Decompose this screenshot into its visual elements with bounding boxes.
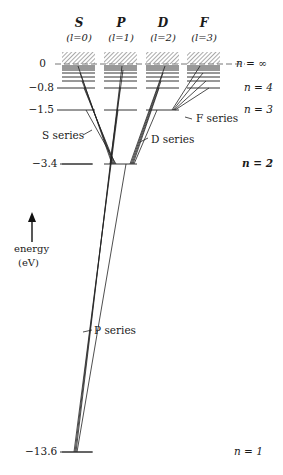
n-infinity-label: n = ∞	[236, 57, 267, 69]
s-series-label: S series	[42, 129, 84, 141]
n4-label: n = 4	[244, 81, 273, 93]
energy-tick-13.6: −13.6	[25, 445, 57, 457]
energy-axis-label: energy	[14, 243, 49, 254]
d-series-label: D series	[151, 133, 194, 145]
n3-label: n = 3	[244, 103, 273, 115]
energy-level-diagram: S P D F (l=0) (l=1) (l=2) (l=3) 0 −0.8 −…	[0, 0, 283, 475]
energy-axis-unit: (eV)	[18, 257, 39, 268]
f-series-label: F series	[196, 112, 238, 124]
n2-label: n = 2	[242, 157, 273, 169]
n1-label: n = 1	[234, 445, 263, 457]
p-series-label: P series	[94, 324, 136, 336]
